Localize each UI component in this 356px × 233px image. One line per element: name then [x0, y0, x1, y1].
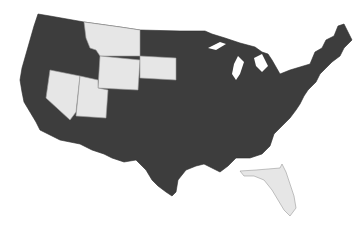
us-map: [0, 0, 356, 233]
state-south-dakota: [140, 56, 176, 80]
state-wyoming: [98, 56, 140, 90]
state-florida: [240, 164, 296, 216]
